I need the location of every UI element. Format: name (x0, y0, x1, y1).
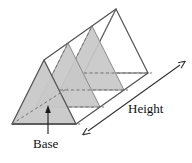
triangular-prism-diagram: Height Base (0, 0, 192, 163)
geometry-figure: Height Base (0, 0, 192, 163)
height-label: Height (128, 101, 164, 116)
base-label: Base (33, 136, 59, 151)
